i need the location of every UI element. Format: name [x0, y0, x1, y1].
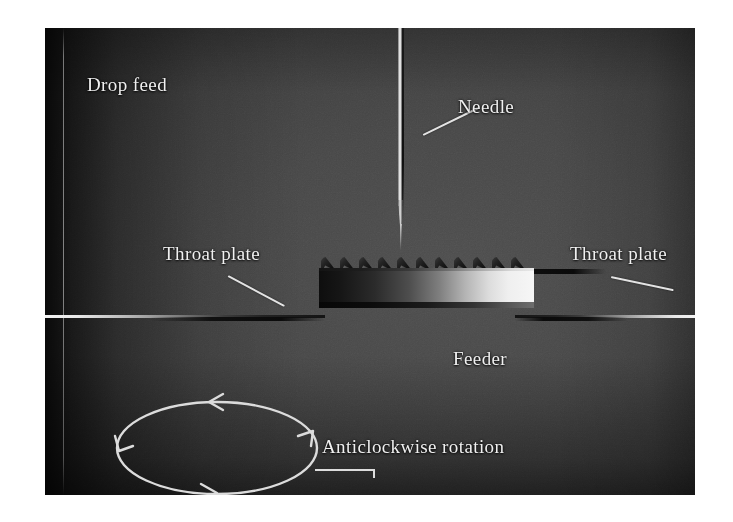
rotation-indicator: [105, 388, 345, 495]
throat-plate-left-graphic: [45, 312, 325, 321]
throat-plate-right-graphic: [515, 312, 695, 321]
scan-line-artifact: [63, 28, 64, 495]
label-drop-feed: Drop feed: [87, 74, 167, 96]
rotation-bracket-tick: [373, 469, 375, 478]
rotation-ellipse: [117, 402, 317, 494]
feeder-bevel: [319, 302, 534, 308]
feeder-part: [319, 255, 534, 311]
figure-page: Drop feed Needle Throat plate Throat pla…: [0, 0, 733, 522]
needle-part: [395, 28, 409, 228]
needle-taper: [398, 200, 403, 226]
label-throat-plate-left: Throat plate: [163, 243, 260, 265]
rotation-arrowhead-left: [115, 436, 133, 451]
throat-plate-right-shadow: [515, 317, 628, 320]
needle-groove: [402, 28, 403, 220]
label-anticlockwise-rotation: Anticlockwise rotation: [322, 436, 504, 458]
photograph: Drop feed Needle Throat plate Throat pla…: [45, 28, 695, 495]
rotation-bracket-horizontal: [315, 469, 375, 471]
label-needle: Needle: [458, 96, 514, 118]
rotation-leader-bracket: [315, 469, 375, 479]
throat-plate-left-shadow: [150, 317, 325, 320]
feeder-right-shadow: [534, 269, 606, 274]
label-throat-plate-right: Throat plate: [570, 243, 667, 265]
label-feeder: Feeder: [453, 348, 507, 370]
